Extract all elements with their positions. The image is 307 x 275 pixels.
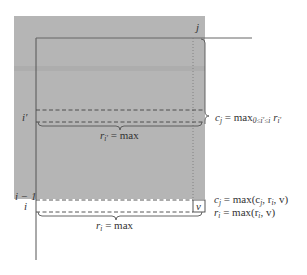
row-i-prime-label: i′ xyxy=(22,111,28,123)
update-r-formula: ri = max(ri, v) xyxy=(214,206,275,220)
update-c-formula: cj = max(cj, ri, v) xyxy=(214,193,289,207)
cell-v-label: v xyxy=(196,200,201,212)
dp-matrix-diagram: v j i′ i − 1 i cj = max0≤i′≤i ri′ ri′ = … xyxy=(0,0,307,275)
row-i-max-label: ri = max xyxy=(96,219,134,233)
shaded-region xyxy=(14,16,205,199)
row-i-label: i xyxy=(24,200,27,212)
shade-band xyxy=(14,66,205,71)
column-max-formula: cj = max0≤i′≤i ri′ xyxy=(215,111,282,125)
